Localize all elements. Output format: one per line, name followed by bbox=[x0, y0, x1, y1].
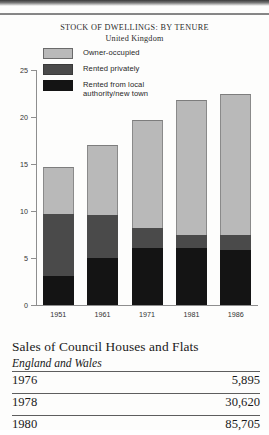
bar-segment-owner-occupied bbox=[220, 94, 251, 236]
page-top-cutoff-band bbox=[0, 0, 269, 6]
bar-segment-rented-from-local-authority-new-town bbox=[132, 248, 163, 305]
bar-segment-owner-occupied bbox=[132, 120, 163, 228]
y-axis-tick-label: 15 bbox=[0, 160, 28, 169]
table-cell-value: 30,620 bbox=[225, 395, 260, 410]
table-cell-value: 5,895 bbox=[232, 373, 260, 388]
table-row: 197830,620 bbox=[12, 393, 260, 415]
chart-plot-area: 2520151050 19511961197119811986 bbox=[0, 18, 269, 334]
table-body: 19765,895197830,620198085,705 bbox=[12, 371, 260, 435]
bar-segment-rented-privately bbox=[87, 215, 118, 258]
table-row: 198085,705 bbox=[12, 415, 260, 435]
table-row: 19765,895 bbox=[12, 371, 260, 393]
x-axis-label-1951: 1951 bbox=[36, 310, 80, 319]
bar-1961 bbox=[87, 145, 118, 305]
bar-segment-rented-from-local-authority-new-town bbox=[220, 250, 251, 305]
bar-1981 bbox=[176, 100, 207, 305]
council-house-sales-table: Sales of Council Houses and Flats Englan… bbox=[12, 339, 260, 435]
bar-segment-rented-from-local-authority-new-town bbox=[176, 248, 207, 305]
table-cell-year: 1976 bbox=[12, 373, 37, 388]
table-cell-year: 1980 bbox=[12, 417, 37, 432]
bar-segment-rented-privately bbox=[176, 235, 207, 247]
x-axis-label-1981: 1981 bbox=[169, 310, 213, 319]
bar-segment-owner-occupied bbox=[87, 145, 118, 215]
bar-series-group bbox=[36, 70, 258, 305]
x-axis-line bbox=[36, 305, 258, 306]
table-cell-value: 85,705 bbox=[225, 417, 260, 432]
y-axis-tick-label: 5 bbox=[0, 254, 28, 263]
bar-segment-rented-from-local-authority-new-town bbox=[43, 276, 74, 305]
page-top-rule bbox=[0, 13, 269, 15]
bar-1986 bbox=[220, 94, 251, 305]
stock-of-dwellings-chart: STOCK OF DWELLINGS: BY TENURE United Kin… bbox=[0, 18, 269, 334]
bar-1951 bbox=[43, 167, 74, 305]
bar-segment-rented-from-local-authority-new-town bbox=[87, 258, 118, 305]
bar-segment-rented-privately bbox=[220, 235, 251, 249]
table-cell-year: 1978 bbox=[12, 395, 37, 410]
y-axis-tick-label: 10 bbox=[0, 207, 28, 216]
y-axis-tick-label: 20 bbox=[0, 113, 28, 122]
x-axis-label-1986: 1986 bbox=[214, 310, 258, 319]
y-axis-tick-label: 25 bbox=[0, 66, 28, 75]
bar-segment-owner-occupied bbox=[176, 100, 207, 235]
bar-1971 bbox=[132, 120, 163, 305]
x-axis-label-1971: 1971 bbox=[125, 310, 169, 319]
bar-segment-rented-privately bbox=[43, 214, 74, 276]
bar-segment-rented-privately bbox=[132, 228, 163, 248]
table-subtitle: England and Wales bbox=[12, 356, 260, 371]
bar-segment-owner-occupied bbox=[43, 167, 74, 214]
y-axis-tick-label: 0 bbox=[0, 301, 28, 310]
x-axis-label-1961: 1961 bbox=[81, 310, 125, 319]
table-title: Sales of Council Houses and Flats bbox=[12, 339, 260, 355]
